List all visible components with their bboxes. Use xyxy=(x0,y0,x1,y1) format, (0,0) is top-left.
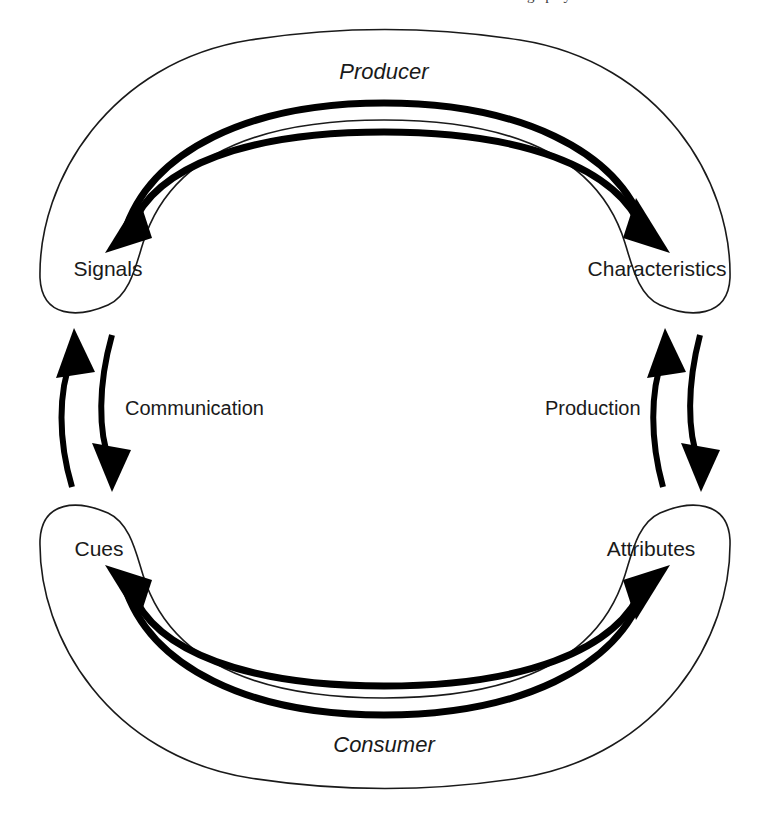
arrow-attributes-to-cues xyxy=(131,585,644,686)
arrowhead-cues-to-signals xyxy=(56,328,95,378)
diagram-canvas: Producer Consumer Signals Characteristic… xyxy=(0,0,768,818)
node-label-signals: Signals xyxy=(74,257,143,280)
arrowhead-characteristics-to-attributes xyxy=(681,443,720,492)
node-label-attributes: Attributes xyxy=(607,537,696,560)
edge-label-production: Production xyxy=(545,397,641,419)
zone-label-consumer: Consumer xyxy=(333,732,436,757)
node-label-cues: Cues xyxy=(74,537,123,560)
arrow-signals-to-cues xyxy=(101,335,112,462)
arrow-characteristics-to-signals xyxy=(131,132,644,233)
arrowhead-signals-to-cues xyxy=(92,443,131,492)
node-label-characteristics: Characteristics xyxy=(588,257,727,280)
arrow-signals-to-characteristics xyxy=(124,103,644,233)
arrow-characteristics-to-attributes xyxy=(690,335,700,462)
arrow-cues-to-attributes xyxy=(124,585,644,715)
figure-root: ng p y Producer Consumer xyxy=(0,0,768,818)
edge-label-communication: Communication xyxy=(125,397,264,419)
arrowhead-attributes-to-characteristics xyxy=(647,328,686,378)
zone-label-producer: Producer xyxy=(339,59,430,84)
